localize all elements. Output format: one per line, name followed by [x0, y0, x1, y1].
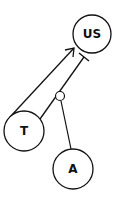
- node-a[interactable]: A: [53, 149, 93, 189]
- modulation-edge: [61, 101, 71, 149]
- node-t-label: T: [20, 124, 29, 138]
- node-us[interactable]: US: [73, 15, 111, 53]
- node-t[interactable]: T: [4, 111, 44, 151]
- inhibition-edge: [40, 57, 84, 119]
- inhibition-bar-icon: [79, 53, 89, 61]
- junction-node: [56, 92, 65, 101]
- node-a-label: A: [68, 162, 78, 176]
- activation-edge: [10, 48, 74, 117]
- diagram-canvas: US T A: [0, 0, 118, 198]
- node-us-label: US: [83, 27, 101, 41]
